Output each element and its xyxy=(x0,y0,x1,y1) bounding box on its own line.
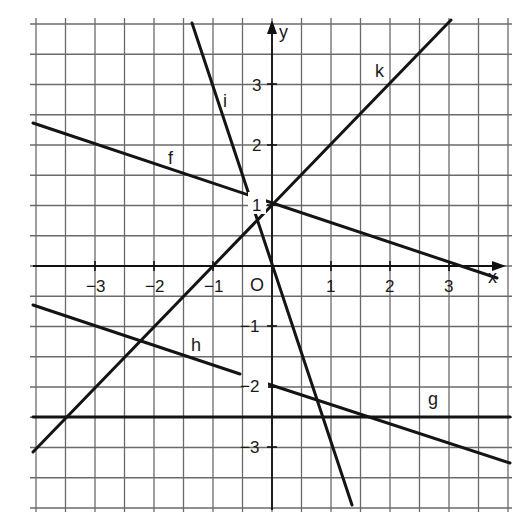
x-tick-label: 3 xyxy=(444,277,453,296)
label-f: f xyxy=(168,148,174,168)
y-tick-label: 1 xyxy=(252,196,261,215)
line-h-left xyxy=(33,305,240,374)
y-tick-label: 2 xyxy=(252,136,261,155)
y-tick-label: −2 xyxy=(240,377,259,396)
x-tick-label: −1 xyxy=(204,277,223,296)
x-tick-label: 1 xyxy=(326,277,335,296)
label-i: i xyxy=(223,91,227,111)
y-tick-label: −1 xyxy=(240,317,259,336)
x-axis-label: x xyxy=(488,267,497,287)
y-axis-label: y xyxy=(279,22,288,42)
coordinate-plane: −3 −2 −1 1 2 3 3 2 1 −1 −2 −3 O x y f g … xyxy=(0,0,532,525)
label-h: h xyxy=(191,335,201,355)
x-tick-label: −2 xyxy=(145,277,164,296)
origin-label: O xyxy=(250,275,264,295)
graph-canvas: −3 −2 −1 1 2 3 3 2 1 −1 −2 −3 O x y f g … xyxy=(0,0,532,525)
y-tick-label: 3 xyxy=(252,76,261,95)
y-tick-label: −3 xyxy=(240,438,259,457)
label-k: k xyxy=(375,61,385,81)
label-g: g xyxy=(428,389,438,409)
y-axis-arrow-icon xyxy=(267,20,277,34)
x-tick-label: −3 xyxy=(86,277,105,296)
x-tick-label: 2 xyxy=(385,277,394,296)
